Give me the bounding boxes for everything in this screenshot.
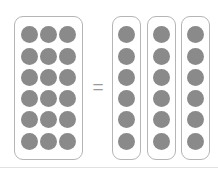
counter-dot <box>153 133 170 150</box>
counter-dot <box>187 48 204 65</box>
counter-dot <box>59 111 76 128</box>
part-group-1-panel <box>112 16 141 160</box>
counter-dot <box>118 26 135 43</box>
counter-dot <box>118 133 135 150</box>
counter-dot <box>40 26 57 43</box>
counter-dot <box>153 26 170 43</box>
counter-dot <box>118 111 135 128</box>
whole-group-row <box>19 111 78 128</box>
counter-dot <box>187 26 204 43</box>
counter-dot <box>187 69 204 86</box>
counter-dot <box>21 48 38 65</box>
counter-dot <box>118 48 135 65</box>
counter-dot <box>21 111 38 128</box>
counter-dot <box>153 48 170 65</box>
whole-group-row <box>19 26 78 43</box>
equals-sign: = <box>88 75 108 97</box>
counter-dot <box>59 69 76 86</box>
counter-dot <box>118 90 135 107</box>
counter-dot <box>21 90 38 107</box>
whole-group-row <box>19 48 78 65</box>
counter-dot <box>40 48 57 65</box>
counter-dot <box>40 69 57 86</box>
counter-dot <box>40 111 57 128</box>
counter-dot <box>21 26 38 43</box>
counter-dot <box>59 133 76 150</box>
counter-dot <box>40 90 57 107</box>
counter-dot <box>153 90 170 107</box>
counter-dot <box>40 133 57 150</box>
counter-dot <box>187 90 204 107</box>
whole-group-panel <box>14 16 83 160</box>
part-group-2-panel <box>147 16 176 160</box>
counter-dot <box>59 90 76 107</box>
counter-dot <box>187 111 204 128</box>
whole-group-row <box>19 69 78 86</box>
counter-dot <box>187 133 204 150</box>
counter-dot <box>153 111 170 128</box>
diagram-canvas: = <box>0 0 218 173</box>
whole-group-row <box>19 133 78 150</box>
counter-dot <box>59 48 76 65</box>
counter-dot <box>118 69 135 86</box>
counter-dot <box>21 69 38 86</box>
counter-dot <box>21 133 38 150</box>
part-group-3-panel <box>181 16 210 160</box>
counter-dot <box>153 69 170 86</box>
bottom-divider <box>0 167 218 168</box>
counter-dot <box>59 26 76 43</box>
whole-group-row <box>19 90 78 107</box>
